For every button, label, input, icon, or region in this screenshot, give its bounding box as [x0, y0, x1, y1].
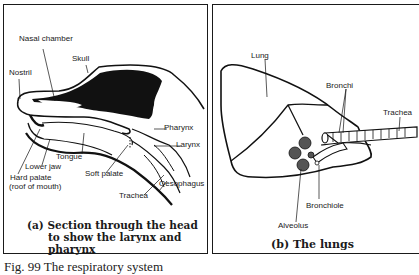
label-tongue: Tongue — [56, 153, 82, 161]
label-oesophagus: Oesophagus — [159, 180, 204, 188]
panel-lungs: Lung Bronchi Trachea Bronchiole Alveolus… — [212, 4, 419, 254]
caption-b: (b) The lungs — [271, 239, 354, 251]
label-trachea-b: Trachea — [383, 109, 412, 117]
label-hard-palate: Hard palate — [10, 174, 51, 182]
label-pharynx: Pharynx — [164, 124, 193, 132]
label-lower-jaw: Lower jaw — [25, 163, 61, 171]
label-bronchi: Bronchi — [326, 82, 353, 90]
caption-a-line2: to show the larynx and — [48, 231, 181, 243]
label-lung: Lung — [251, 52, 269, 60]
caption-a-line1: (a) Section through the head — [27, 219, 198, 231]
label-skull: Skull — [72, 55, 89, 63]
lungs-drawing — [213, 5, 419, 255]
panel-head-section: Nasal chamber Skull Nostril Pharynx Lary… — [3, 4, 208, 254]
label-soft-palate: Soft palate — [85, 170, 123, 178]
label-alveolus: Alveolus — [278, 222, 308, 230]
label-nasal-chamber: Nasal chamber — [19, 35, 73, 43]
figure-caption: Fig. 99 The respiratory system — [4, 259, 163, 275]
label-trachea: Trachea — [119, 192, 148, 200]
label-hard-palate-note: (roof of mouth) — [9, 183, 61, 191]
label-nostril: Nostril — [9, 69, 32, 77]
label-larynx: Larynx — [176, 141, 200, 149]
caption-a-line3: pharynx — [48, 243, 95, 255]
label-bronchiole: Bronchiole — [306, 202, 344, 210]
